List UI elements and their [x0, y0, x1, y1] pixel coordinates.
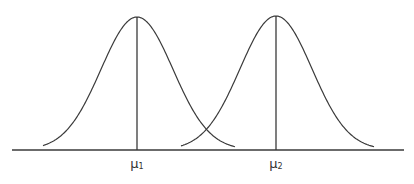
mu-1-label: μ1 — [130, 157, 143, 171]
bell-curve-2 — [181, 16, 374, 147]
bell-curve-1 — [43, 17, 235, 147]
mu-2-label: μ2 — [269, 157, 282, 171]
normal-distributions-diagram — [0, 0, 414, 184]
mu-1-subscript: 1 — [139, 162, 144, 171]
mu-2-subscript: 2 — [278, 162, 283, 171]
